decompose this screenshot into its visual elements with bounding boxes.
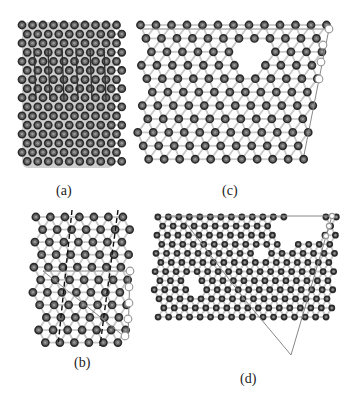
atom-core-a bbox=[73, 115, 76, 118]
atom-core-a bbox=[73, 24, 76, 27]
atom-core-d bbox=[193, 225, 195, 227]
atom-core-a bbox=[36, 51, 39, 54]
atom-core-a bbox=[73, 42, 76, 45]
atom-core-a bbox=[99, 106, 102, 109]
atom-core-a bbox=[31, 115, 34, 118]
atom-core-a bbox=[110, 51, 113, 54]
atom-core-d bbox=[178, 316, 180, 318]
atom-core-d bbox=[226, 307, 228, 309]
atom-core-d bbox=[243, 280, 245, 282]
atom-core-d bbox=[275, 280, 277, 282]
atom-core-d bbox=[249, 271, 251, 273]
atom-core-d bbox=[162, 225, 164, 227]
atom-core-b bbox=[73, 341, 76, 344]
atom-core-a bbox=[99, 33, 102, 36]
atom-core-d bbox=[161, 243, 163, 245]
atom-core-c bbox=[224, 118, 227, 121]
atom-core-d bbox=[291, 271, 293, 273]
atom-core-a bbox=[47, 106, 50, 109]
atom-core-b bbox=[76, 266, 79, 269]
atom-core-c bbox=[218, 64, 221, 67]
atom-core-c bbox=[305, 51, 308, 54]
atom-core-a bbox=[94, 78, 97, 81]
atom-core-c bbox=[301, 77, 304, 80]
atom-core-d bbox=[182, 243, 184, 245]
atom-core-a bbox=[68, 106, 71, 109]
atom-core-d bbox=[235, 225, 237, 227]
atom-core-d bbox=[292, 252, 294, 254]
atom-core-d bbox=[227, 289, 229, 291]
atom-core-d bbox=[229, 252, 231, 254]
atom-core-d bbox=[305, 298, 307, 300]
atom-core-d bbox=[318, 243, 320, 245]
atom-core-b bbox=[88, 341, 91, 344]
atom-core-c bbox=[155, 24, 158, 27]
panel-label-b: (b) bbox=[74, 355, 90, 371]
atom-core-d bbox=[302, 252, 304, 254]
atom-core-a bbox=[52, 78, 55, 81]
atom-core-a bbox=[42, 96, 45, 99]
atom-core-c bbox=[177, 77, 180, 80]
atom-core-c bbox=[234, 104, 237, 107]
atom-core-d bbox=[247, 307, 249, 309]
atom-core-c bbox=[194, 158, 197, 161]
atom-core-c bbox=[163, 158, 166, 161]
atom-core-a bbox=[89, 106, 92, 109]
atom-core-d bbox=[299, 307, 301, 309]
atom-core-c bbox=[181, 51, 184, 54]
atom-core-c bbox=[140, 64, 143, 67]
atom-core-b bbox=[64, 216, 67, 219]
atom-core-d bbox=[186, 271, 188, 273]
atom-core-b bbox=[69, 253, 72, 256]
atom-core-c bbox=[183, 131, 186, 134]
atom-core-d bbox=[307, 262, 309, 264]
atom-core-a bbox=[47, 33, 50, 36]
open-atom-b bbox=[121, 332, 129, 340]
atom-core-a bbox=[57, 142, 60, 145]
open-atom-d bbox=[326, 223, 331, 228]
atom-core-d bbox=[198, 234, 200, 236]
atom-core-c bbox=[203, 104, 206, 107]
atom-core-a bbox=[36, 87, 39, 90]
atom-core-a bbox=[47, 124, 50, 127]
atom-core-d bbox=[205, 307, 207, 309]
atom-core-b bbox=[117, 341, 120, 344]
atom-core-c bbox=[297, 145, 300, 148]
atom-core-b bbox=[85, 228, 88, 231]
atom-core-d bbox=[202, 262, 204, 264]
atom-core-c bbox=[229, 131, 232, 134]
atom-core-c bbox=[160, 37, 163, 40]
atom-core-a bbox=[78, 69, 81, 72]
atom-core-a bbox=[78, 106, 81, 109]
atom-core-a bbox=[89, 33, 92, 36]
atom-core-a bbox=[89, 160, 92, 163]
atom-core-a bbox=[42, 133, 45, 136]
atom-core-a bbox=[84, 133, 87, 136]
panel-label-a: (a) bbox=[56, 183, 72, 199]
atom-core-b bbox=[41, 228, 44, 231]
atom-core-b bbox=[46, 291, 49, 294]
atom-core-c bbox=[302, 158, 305, 161]
atom-core-d bbox=[199, 316, 201, 318]
atom-core-c bbox=[167, 131, 170, 134]
atom-core-a bbox=[73, 78, 76, 81]
atom-core-b bbox=[53, 304, 56, 307]
atom-core-c bbox=[321, 51, 324, 54]
atom-core-c bbox=[178, 158, 181, 161]
atom-core-d bbox=[187, 252, 189, 254]
atom-core-a bbox=[63, 24, 66, 27]
atom-core-b bbox=[121, 241, 124, 244]
atom-core-d bbox=[300, 289, 302, 291]
atom-core-d bbox=[332, 289, 334, 291]
atom-core-b bbox=[92, 241, 95, 244]
atom-core-d bbox=[296, 280, 298, 282]
atom-core-c bbox=[296, 104, 299, 107]
atom-core-d bbox=[268, 307, 270, 309]
atom-core-d bbox=[167, 234, 169, 236]
atom-core-c bbox=[244, 91, 247, 94]
atom-core-d bbox=[308, 243, 310, 245]
atom-core-a bbox=[84, 42, 87, 45]
atom-core-d bbox=[269, 289, 271, 291]
atom-core-c bbox=[274, 51, 277, 54]
atom-core-d bbox=[304, 316, 306, 318]
